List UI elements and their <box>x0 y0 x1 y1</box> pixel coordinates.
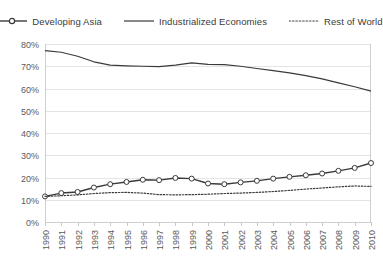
data-point-marker <box>189 176 194 181</box>
y-tick-label: 70% <box>21 62 39 72</box>
x-tick-label: 1995 <box>123 230 133 250</box>
x-tick-label: 2008 <box>334 230 344 250</box>
data-point-marker <box>320 171 325 176</box>
legend-label-rest-of-world: Rest of World <box>324 16 383 27</box>
plot-svg: 0%10%20%30%40%50%60%70%80% 1990199119921… <box>0 32 380 272</box>
y-tick-label: 40% <box>21 129 39 139</box>
x-tick-label: 2000 <box>204 230 214 250</box>
y-tick-label: 10% <box>21 196 39 206</box>
y-tick-label: 80% <box>21 40 39 50</box>
data-point-marker <box>59 191 64 196</box>
legend-swatch-line-marker-icon <box>0 16 27 26</box>
data-point-marker <box>287 174 292 179</box>
x-tick-label: 2005 <box>286 230 296 250</box>
x-axis-group <box>45 44 372 226</box>
x-tick-label: 2003 <box>253 230 263 250</box>
x-tick-label: 2007 <box>318 230 328 250</box>
data-point-marker <box>336 168 341 173</box>
data-point-marker <box>140 177 145 182</box>
x-tick-label: 1996 <box>139 230 149 250</box>
data-point-marker <box>222 182 227 187</box>
data-point-marker <box>254 178 259 183</box>
legend-swatch-dotted-line-icon <box>289 16 319 26</box>
plot-area-wrapper: 0%10%20%30%40%50%60%70%80% 1990199119921… <box>0 32 380 272</box>
chart-legend: Developing Asia Industrialized Economies… <box>0 11 380 31</box>
data-point-marker <box>157 178 162 183</box>
gridlines-group <box>45 45 371 223</box>
series-line-developing-asia <box>45 163 371 196</box>
x-tick-label: 2001 <box>220 230 230 250</box>
y-tick-label: 30% <box>21 151 39 161</box>
data-point-marker <box>303 173 308 178</box>
data-point-marker <box>91 185 96 190</box>
data-point-marker <box>75 189 80 194</box>
x-tick-label: 1993 <box>90 230 100 250</box>
x-tick-label: 1991 <box>57 230 67 250</box>
x-tick-label: 2009 <box>351 230 361 250</box>
x-tick-label: 1992 <box>74 230 84 250</box>
data-point-marker <box>206 181 211 186</box>
data-point-marker <box>238 180 243 185</box>
data-point-marker <box>369 161 374 166</box>
legend-item-industrialized-economies: Industrialized Economies <box>124 16 267 27</box>
x-tick-label: 2010 <box>367 230 377 250</box>
y-axis-tick-labels: 0%10%20%30%40%50%60%70%80% <box>21 40 39 228</box>
y-tick-label: 20% <box>21 174 39 184</box>
x-tick-label: 1999 <box>188 230 198 250</box>
legend-swatch-solid-line-icon <box>124 16 154 26</box>
data-point-marker <box>124 179 129 184</box>
legend-label-industrialized-economies: Industrialized Economies <box>159 16 267 27</box>
data-point-marker <box>271 176 276 181</box>
series-line-industrialized-economies <box>45 51 371 92</box>
x-tick-label: 2004 <box>269 230 279 250</box>
x-tick-label: 1998 <box>171 230 181 250</box>
x-tick-label: 1990 <box>41 230 51 250</box>
legend-item-developing-asia: Developing Asia <box>0 16 102 27</box>
legend-label-developing-asia: Developing Asia <box>32 16 102 27</box>
data-point-marker <box>108 182 113 187</box>
data-point-marker <box>352 165 357 170</box>
y-tick-label: 60% <box>21 85 39 95</box>
y-tick-label: 0% <box>26 218 39 228</box>
data-point-marker <box>173 175 178 180</box>
y-tick-label: 50% <box>21 107 39 117</box>
x-tick-label: 1994 <box>106 230 116 250</box>
x-tick-label: 2002 <box>237 230 247 250</box>
x-tick-label: 1997 <box>155 230 165 250</box>
x-axis-tick-labels: 1990199119921993199419951996199719981999… <box>41 230 377 250</box>
x-tick-label: 2006 <box>302 230 312 250</box>
legend-item-rest-of-world: Rest of World <box>289 16 383 27</box>
data-series-group <box>43 51 374 199</box>
